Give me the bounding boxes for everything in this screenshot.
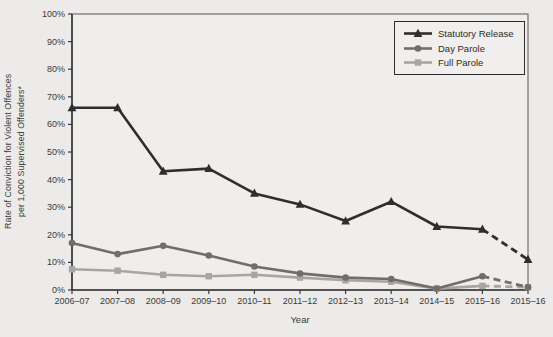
square-marker-icon [69, 266, 75, 272]
x-axis-title: Year [72, 314, 528, 325]
circle-marker-icon [415, 45, 422, 52]
x-tick-label: 2009–10 [191, 296, 226, 306]
circle-marker-icon [479, 273, 486, 280]
circle-marker-icon [69, 240, 76, 247]
y-tick-label: 40% [47, 175, 65, 185]
y-tick-label: 0% [52, 285, 65, 295]
y-tick-label: 30% [47, 202, 65, 212]
y-tick-label: 10% [47, 257, 65, 267]
legend-label-day-parole: Day Parole [438, 43, 485, 54]
day-parole-line-sample-icon [403, 43, 433, 54]
square-marker-icon [160, 272, 166, 278]
y-tick-label: 90% [47, 37, 65, 47]
conviction-rate-line-chart-figure: 0%10%20%30%40%50%60%70%80%90%100%2006–07… [0, 0, 553, 337]
legend-item-full-parole: Full Parole [403, 57, 518, 68]
y-tick-label: 80% [47, 64, 65, 74]
x-tick-label: 2014–15 [419, 296, 454, 306]
y-tick-label: 100% [42, 9, 65, 19]
x-tick-label: 2007–08 [100, 296, 135, 306]
y-tick-label: 50% [47, 147, 65, 157]
x-tick-label: 2008–09 [146, 296, 181, 306]
y-axis-title: Rate of Conviction for Violent Offences … [2, 6, 32, 296]
square-marker-icon [415, 59, 421, 65]
circle-marker-icon [434, 285, 441, 292]
y-tick-label: 60% [47, 119, 65, 129]
x-tick-label: 2013–14 [374, 296, 409, 306]
y-axis-title-line2: per 1,000 Supervised Offenders* [15, 6, 28, 296]
circle-marker-icon [342, 274, 349, 281]
statutory-release-line-sample-icon [403, 28, 433, 39]
circle-marker-icon [251, 263, 258, 270]
circle-marker-icon [525, 284, 532, 291]
x-tick-label: 2015–16 [510, 296, 545, 306]
chart-legend: Statutory Release Day Parole Full Parole [394, 21, 525, 75]
circle-marker-icon [206, 252, 213, 259]
circle-marker-icon [114, 251, 121, 258]
x-tick-label: 2006–07 [54, 296, 89, 306]
full-parole-line-sample-icon [403, 57, 433, 68]
legend-label-statutory-release: Statutory Release [438, 28, 514, 39]
x-tick-label: 2010–11 [237, 296, 271, 306]
square-marker-icon [206, 273, 212, 279]
x-tick-label: 2012–13 [328, 296, 363, 306]
y-tick-label: 20% [47, 230, 65, 240]
circle-marker-icon [160, 243, 167, 250]
square-marker-icon [251, 272, 257, 278]
x-tick-label: 2015–16 [465, 296, 500, 306]
legend-item-statutory-release: Statutory Release [403, 28, 518, 39]
square-marker-icon [114, 267, 120, 273]
circle-marker-icon [388, 276, 395, 283]
legend-label-full-parole: Full Parole [438, 57, 483, 68]
y-axis-title-line1: Rate of Conviction for Violent Offences [2, 6, 15, 296]
legend-item-day-parole: Day Parole [403, 43, 518, 54]
x-tick-label: 2011–12 [283, 296, 317, 306]
y-tick-label: 70% [47, 92, 65, 102]
square-marker-icon [479, 283, 485, 289]
circle-marker-icon [297, 270, 304, 277]
